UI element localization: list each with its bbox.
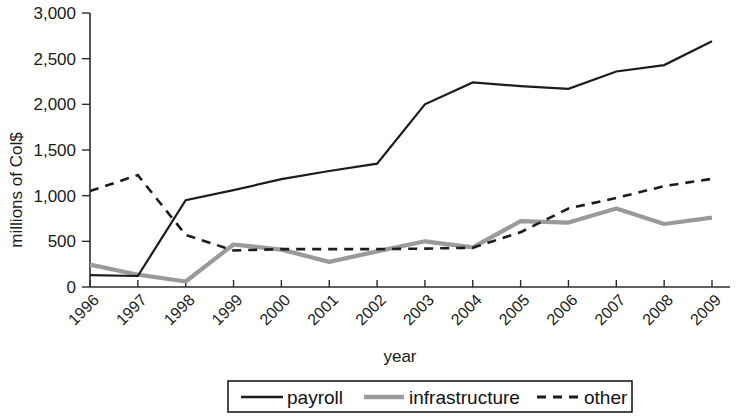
- x-tick-label: 2002: [352, 291, 389, 328]
- legend-label-payroll: payroll: [287, 387, 343, 408]
- x-tick-label: 2006: [543, 291, 580, 328]
- series-line-payroll: [90, 41, 712, 276]
- x-tick-label: 1998: [161, 291, 198, 328]
- y-axis: 05001,0001,5002,0002,5003,000: [33, 4, 90, 297]
- y-tick-label-group: 05001,0001,5002,0002,5003,000: [33, 4, 76, 297]
- x-tick-label: 2004: [448, 291, 485, 328]
- x-tick-label-group: 1996199719981999200020012002200320042005…: [65, 291, 724, 328]
- plot-series-group: [90, 41, 712, 281]
- legend-label-other: other: [584, 387, 628, 408]
- x-tick-label: 1997: [113, 291, 150, 328]
- y-tick-label: 0: [67, 278, 76, 297]
- chart-legend: payroll infrastructure other: [228, 381, 632, 412]
- legend-label-infrastructure: infrastructure: [409, 387, 520, 408]
- x-axis: 1996199719981999200020012002200320042005…: [65, 280, 730, 328]
- series-line-other: [90, 175, 712, 250]
- y-tick-label: 1,500: [33, 141, 76, 160]
- y-tick-label: 2,000: [33, 95, 76, 114]
- y-tick-label: 3,000: [33, 4, 76, 23]
- line-chart: 05001,0001,5002,0002,5003,000 1996199719…: [0, 0, 740, 416]
- y-tick-label: 2,500: [33, 50, 76, 69]
- y-tick-group: [82, 13, 90, 287]
- series-line-infrastructure: [90, 209, 712, 282]
- x-tick-label: 2008: [639, 291, 676, 328]
- chart-canvas: 05001,0001,5002,0002,5003,000 1996199719…: [0, 0, 740, 416]
- x-axis-title: year: [383, 347, 416, 366]
- x-tick-label: 2007: [591, 291, 628, 328]
- x-tick-label: 2009: [687, 291, 724, 328]
- x-tick-label: 2001: [304, 291, 341, 328]
- x-tick-label: 2000: [256, 291, 293, 328]
- y-axis-title: millions of Col$: [7, 132, 26, 248]
- x-tick-label: 2005: [496, 291, 533, 328]
- y-tick-label: 1,000: [33, 187, 76, 206]
- x-tick-label: 2003: [400, 291, 437, 328]
- x-tick-label: 1999: [208, 291, 245, 328]
- y-tick-label: 500: [48, 232, 76, 251]
